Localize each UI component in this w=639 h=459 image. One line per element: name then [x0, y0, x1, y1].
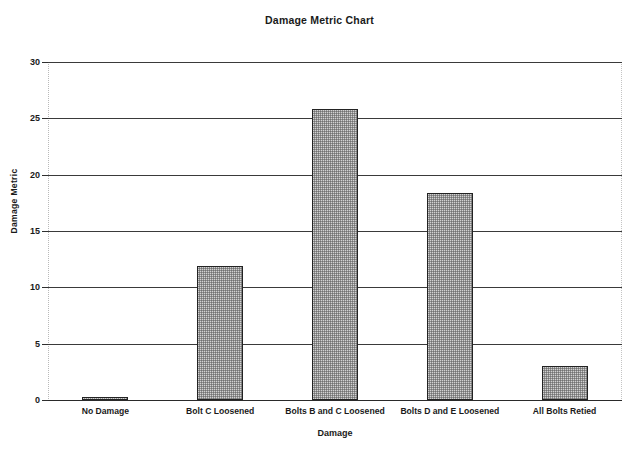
bar	[197, 266, 243, 400]
x-tick-label: No Damage	[82, 406, 129, 416]
gridline-30	[48, 62, 622, 63]
y-tick-label: 5	[0, 339, 40, 349]
plot-area	[48, 62, 622, 400]
y-axis-title: Damage Metric	[9, 151, 19, 251]
y-tick-label: 10	[0, 282, 40, 292]
gridline-0	[48, 400, 622, 401]
bar	[427, 193, 473, 400]
y-tick-label: 15	[0, 226, 40, 236]
bar	[82, 397, 128, 400]
y-tick-label: 30	[0, 57, 40, 67]
y-tick-label: 0	[0, 395, 40, 405]
bar	[542, 366, 588, 400]
x-tick-label: Bolts D and E Loosened	[400, 406, 499, 416]
y-tick-label: 25	[0, 113, 40, 123]
bar	[312, 109, 358, 400]
x-axis-title: Damage	[48, 428, 622, 438]
damage-metric-bar-chart: Damage Metric Chart Damage Metric 051015…	[0, 0, 639, 459]
x-tick-label: Bolt C Loosened	[186, 406, 254, 416]
chart-title: Damage Metric Chart	[0, 14, 639, 26]
x-tick-label: All Bolts Retied	[533, 406, 597, 416]
x-tick-label: Bolts B and C Loosened	[285, 406, 384, 416]
y-tick-label: 20	[0, 170, 40, 180]
